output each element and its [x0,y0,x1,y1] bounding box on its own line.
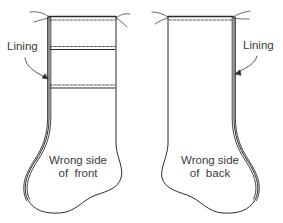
back-lining-callout-arrow [235,56,257,75]
front-caption-line2: of front [42,167,114,180]
diagram-drawing [0,0,283,223]
back-lining-label: Lining [243,39,274,52]
front-caption-line1: Wrong side [42,154,114,167]
front-lining-label: Lining [7,40,38,53]
back-caption: Wrong side of back [174,154,246,180]
front-lining-callout-arrow [25,58,48,79]
front-caption: Wrong side of front [42,154,114,180]
stocking-diagram: Lining Lining Wrong side of front Wrong … [0,0,283,223]
back-caption-line2: of back [174,167,246,180]
back-caption-line1: Wrong side [174,154,246,167]
front-stocking-piece [24,12,130,213]
